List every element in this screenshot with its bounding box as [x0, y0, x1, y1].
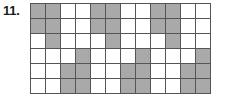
- grid-cell-filled[interactable]: [91, 19, 106, 34]
- grid-cell-empty[interactable]: [121, 34, 136, 49]
- grid-cell-empty[interactable]: [91, 49, 106, 64]
- grid-cell-empty[interactable]: [61, 34, 76, 49]
- grid-cell-filled[interactable]: [196, 49, 211, 64]
- grid-cell-empty[interactable]: [91, 34, 106, 49]
- grid-cell-empty[interactable]: [61, 4, 76, 19]
- grid-cell-empty[interactable]: [91, 64, 106, 79]
- grid-row: [31, 19, 211, 34]
- grid-cell-empty[interactable]: [46, 64, 61, 79]
- grid-cell-filled[interactable]: [166, 34, 181, 49]
- grid-cell-filled[interactable]: [196, 79, 211, 94]
- grid-cell-filled[interactable]: [91, 4, 106, 19]
- grid-cell-empty[interactable]: [76, 4, 91, 19]
- grid-cell-empty[interactable]: [31, 34, 46, 49]
- grid-cell-empty[interactable]: [151, 49, 166, 64]
- grid-cell-empty[interactable]: [166, 49, 181, 64]
- grid-cell-empty[interactable]: [31, 79, 46, 94]
- grid-cell-empty[interactable]: [31, 64, 46, 79]
- grid-cell-empty[interactable]: [151, 79, 166, 94]
- grid-cell-empty[interactable]: [151, 34, 166, 49]
- grid-cell-empty[interactable]: [181, 4, 196, 19]
- grid-row: [31, 79, 211, 94]
- grid-cell-empty[interactable]: [196, 19, 211, 34]
- grid-cell-filled[interactable]: [136, 49, 151, 64]
- grid-cell-empty[interactable]: [76, 19, 91, 34]
- grid-cell-filled[interactable]: [196, 64, 211, 79]
- grid-cell-filled[interactable]: [121, 79, 136, 94]
- grid-cell-filled[interactable]: [166, 4, 181, 19]
- grid-row: [31, 4, 211, 19]
- grid-cell-filled[interactable]: [106, 34, 121, 49]
- grid-cell-empty[interactable]: [31, 49, 46, 64]
- grid-cell-empty[interactable]: [121, 19, 136, 34]
- grid-cell-empty[interactable]: [196, 4, 211, 19]
- grid-cell-empty[interactable]: [106, 64, 121, 79]
- grid-cell-empty[interactable]: [91, 79, 106, 94]
- grid-cell-empty[interactable]: [61, 19, 76, 34]
- grid-cell-empty[interactable]: [136, 34, 151, 49]
- problem-container: 11.: [0, 0, 228, 107]
- grid-cell-empty[interactable]: [121, 4, 136, 19]
- grid-cell-filled[interactable]: [166, 19, 181, 34]
- grid-body: [31, 4, 211, 94]
- grid-cell-empty[interactable]: [181, 34, 196, 49]
- grid-cell-empty[interactable]: [61, 49, 76, 64]
- grid-cell-filled[interactable]: [106, 19, 121, 34]
- problem-number-label: 11.: [3, 3, 19, 18]
- grid-cell-empty[interactable]: [166, 64, 181, 79]
- grid-cell-empty[interactable]: [46, 49, 61, 64]
- grid-cell-filled[interactable]: [106, 4, 121, 19]
- grid-cell-filled[interactable]: [151, 19, 166, 34]
- shaded-grid: [30, 3, 211, 94]
- grid-cell-empty[interactable]: [166, 79, 181, 94]
- grid-container: [30, 3, 211, 94]
- grid-cell-empty[interactable]: [181, 49, 196, 64]
- grid-row: [31, 49, 211, 64]
- grid-cell-empty[interactable]: [151, 64, 166, 79]
- grid-cell-empty[interactable]: [136, 19, 151, 34]
- grid-cell-empty[interactable]: [136, 4, 151, 19]
- grid-row: [31, 64, 211, 79]
- grid-cell-empty[interactable]: [106, 49, 121, 64]
- grid-cell-filled[interactable]: [136, 64, 151, 79]
- grid-cell-filled[interactable]: [61, 64, 76, 79]
- grid-cell-filled[interactable]: [31, 4, 46, 19]
- grid-cell-empty[interactable]: [181, 19, 196, 34]
- grid-cell-filled[interactable]: [181, 79, 196, 94]
- grid-cell-filled[interactable]: [76, 49, 91, 64]
- grid-cell-filled[interactable]: [136, 79, 151, 94]
- grid-cell-filled[interactable]: [151, 4, 166, 19]
- grid-cell-empty[interactable]: [76, 34, 91, 49]
- grid-cell-empty[interactable]: [121, 49, 136, 64]
- grid-cell-filled[interactable]: [61, 79, 76, 94]
- grid-cell-filled[interactable]: [46, 4, 61, 19]
- grid-cell-filled[interactable]: [76, 79, 91, 94]
- grid-cell-empty[interactable]: [196, 34, 211, 49]
- grid-cell-filled[interactable]: [76, 64, 91, 79]
- grid-cell-filled[interactable]: [181, 64, 196, 79]
- grid-cell-empty[interactable]: [106, 79, 121, 94]
- grid-cell-filled[interactable]: [46, 34, 61, 49]
- grid-cell-filled[interactable]: [31, 19, 46, 34]
- grid-cell-filled[interactable]: [121, 64, 136, 79]
- grid-cell-filled[interactable]: [46, 19, 61, 34]
- grid-cell-empty[interactable]: [46, 79, 61, 94]
- grid-row: [31, 34, 211, 49]
